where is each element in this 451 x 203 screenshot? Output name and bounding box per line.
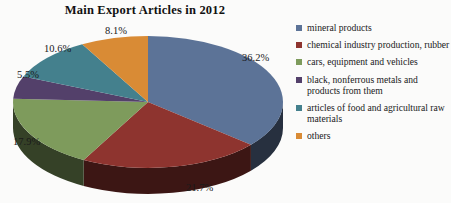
- pie-chart-plot-area: 36.2%21.7%17.9%5.5%10.6%8.1%: [0, 14, 300, 203]
- legend-item-label: black, nonferrous metals and products fr…: [307, 74, 451, 96]
- legend-swatch-icon: [296, 59, 302, 65]
- legend-swatch-icon: [296, 77, 302, 83]
- legend-swatch-icon: [296, 105, 302, 111]
- pie-slice-value-label: 5.5%: [17, 69, 39, 80]
- legend-item-label: mineral products: [307, 22, 372, 33]
- pie-slice-value-label: 10.6%: [44, 43, 71, 54]
- legend-item[interactable]: mineral products: [296, 22, 451, 33]
- legend-swatch-icon: [296, 42, 302, 48]
- legend-item[interactable]: cars, equipment and vehicles: [296, 56, 451, 67]
- chart-legend: mineral productschemical industry produc…: [296, 22, 451, 148]
- legend-swatch-icon: [296, 133, 302, 139]
- pie-slice-value-label: 8.1%: [105, 25, 127, 36]
- legend-item-label: others: [307, 130, 330, 141]
- pie-chart-figure: Main Export Articles in 2012 36.2%21.7%1…: [0, 0, 451, 203]
- pie-slice-value-label: 17.9%: [13, 136, 40, 147]
- legend-item[interactable]: black, nonferrous metals and products fr…: [296, 74, 451, 96]
- legend-item-label: chemical industry production, rubber: [307, 39, 449, 50]
- legend-item[interactable]: articles of food and agricultural raw ma…: [296, 102, 451, 124]
- legend-swatch-icon: [296, 25, 302, 31]
- legend-item-label: articles of food and agricultural raw ma…: [307, 102, 451, 124]
- pie-slice-value-label: 36.2%: [242, 52, 269, 63]
- legend-item-label: cars, equipment and vehicles: [307, 56, 418, 67]
- pie-slice-value-label: 21.7%: [186, 182, 213, 193]
- legend-item[interactable]: chemical industry production, rubber: [296, 39, 451, 50]
- legend-item[interactable]: others: [296, 130, 451, 141]
